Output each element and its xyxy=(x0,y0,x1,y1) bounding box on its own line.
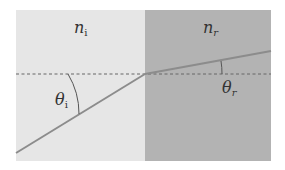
refraction-diagram: ni nr θi θr xyxy=(0,0,285,170)
